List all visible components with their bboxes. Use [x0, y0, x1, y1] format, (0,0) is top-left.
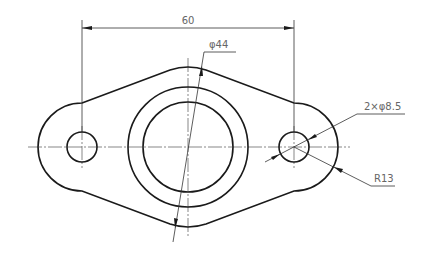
- flange-drawing: 60 φ44 2×φ8.5 R13: [0, 0, 426, 264]
- dimension-label-r13: R13: [374, 173, 394, 184]
- dimension-r13: R13: [294, 147, 395, 186]
- dimension-label-phi44: φ44: [209, 39, 228, 50]
- holes-arrow-upper-icon: [308, 134, 317, 140]
- holes-arrow-lower-icon: [271, 154, 280, 160]
- r13-arrow-icon: [334, 167, 343, 173]
- dimension-label-holes: 2×φ8.5: [364, 101, 401, 112]
- dimension-label-60: 60: [182, 15, 195, 26]
- arrow-right-icon: [284, 26, 294, 30]
- centerlines: [28, 58, 350, 236]
- arrow-left-icon: [82, 26, 92, 30]
- r13-leader: [294, 147, 371, 186]
